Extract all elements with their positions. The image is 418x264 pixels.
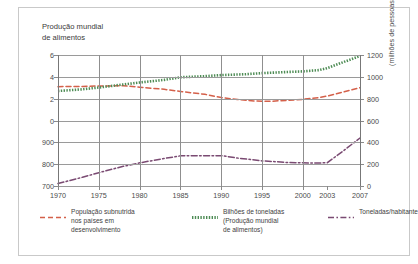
chart-legend: População subnutrida nos países em desen… <box>32 207 400 253</box>
data-series-line-3 <box>58 138 360 184</box>
tick-mark-x <box>58 186 59 190</box>
tick-mark-x <box>221 186 222 190</box>
gridline-vertical <box>140 55 141 186</box>
y-axis-label-left: 700 <box>42 182 54 191</box>
gridline-horizontal <box>58 164 360 165</box>
y-axis-label-right: 200 <box>367 160 379 169</box>
y-axis-label-right: 0 <box>367 182 371 191</box>
y-axis-label-right: 400 <box>367 138 379 147</box>
x-axis-label: 2003 <box>319 191 335 200</box>
gridline-horizontal <box>58 186 360 187</box>
y-axis-label-right: 800 <box>367 94 379 103</box>
tick-mark-x <box>360 186 361 190</box>
legend-swatch-icon <box>328 208 354 217</box>
gridline-horizontal <box>58 77 360 78</box>
legend-label: Bilhões de toneladas (Produção mundial d… <box>223 207 284 235</box>
x-axis-label: 1980 <box>132 191 148 200</box>
gridline-horizontal <box>58 55 360 56</box>
gridline-vertical <box>180 55 181 186</box>
x-axis-label: 1985 <box>172 191 188 200</box>
chart-title: Produção mundial de alimentos <box>42 22 103 43</box>
x-axis-label: 1970 <box>50 191 66 200</box>
y-axis-label-right: 600 <box>367 116 379 125</box>
legend-swatch-icon <box>192 208 218 217</box>
gridline-horizontal <box>58 99 360 100</box>
legend-item-3[interactable]: Toneladas/habitante <box>328 207 418 217</box>
legend-item-2[interactable]: Bilhões de toneladas (Produção mundial d… <box>192 207 284 235</box>
gridline-vertical <box>303 55 304 186</box>
x-axis-label: 1990 <box>213 191 229 200</box>
legend-label: População subnutrida nos países em desen… <box>71 207 135 235</box>
x-axis-label: 1995 <box>254 191 270 200</box>
y-axis-label-left: 0 <box>50 116 54 125</box>
tick-mark-x <box>303 186 304 190</box>
legend-item-1[interactable]: População subnutrida nos países em desen… <box>40 207 135 235</box>
gridline-vertical <box>99 55 100 186</box>
tick-mark-x <box>140 186 141 190</box>
data-series-line-2 <box>58 56 360 91</box>
x-axis-label: 1975 <box>91 191 107 200</box>
gridline-horizontal <box>58 142 360 143</box>
gridline-horizontal <box>58 121 360 122</box>
y-axis-label-left: 6 <box>50 51 54 60</box>
tick-mark-x <box>262 186 263 190</box>
plot-area: 6120041000280006009004008002007000197019… <box>58 55 360 186</box>
y-axis-label-right: 1200 <box>367 51 383 60</box>
y-axis-label-right: 1000 <box>367 72 383 81</box>
tick-mark-x <box>327 186 328 190</box>
y-axis-label-left: 4 <box>50 72 54 81</box>
y-axis-label-left: 800 <box>42 160 54 169</box>
gridline-vertical <box>221 55 222 186</box>
x-axis-label: 2000 <box>295 191 311 200</box>
legend-label: Toneladas/habitante <box>359 207 418 216</box>
tick-mark-x <box>180 186 181 190</box>
x-axis-label: 2007 <box>352 191 368 200</box>
axis-spine-left <box>58 55 59 186</box>
y-axis-label-left: 900 <box>42 138 54 147</box>
right-axis-title: (milhões de pessoas) <box>386 0 398 66</box>
legend-swatch-icon <box>40 208 66 217</box>
tick-mark-x <box>99 186 100 190</box>
gridline-vertical <box>262 55 263 186</box>
axis-spine-right <box>360 55 361 186</box>
y-axis-label-left: 2 <box>50 94 54 103</box>
